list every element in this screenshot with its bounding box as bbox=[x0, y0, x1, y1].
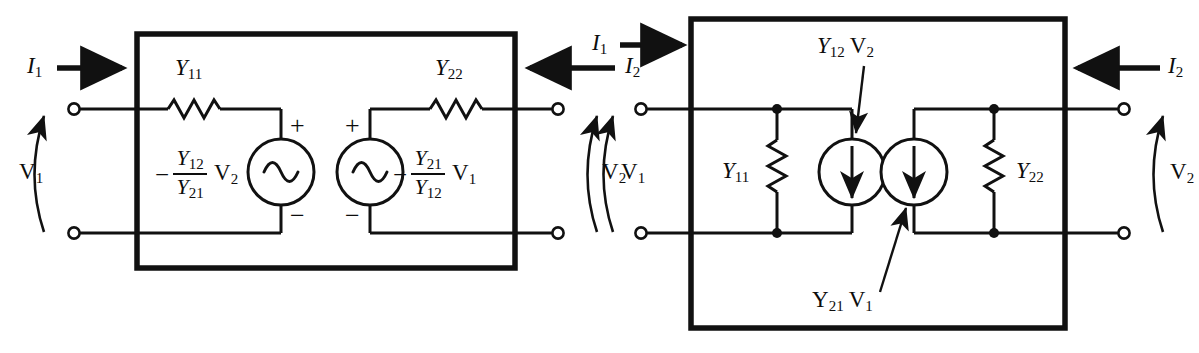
left-source1-factor: V2 bbox=[214, 161, 238, 187]
left-i2-label: I2 bbox=[625, 54, 640, 80]
left-source1-fraction: Y12 Y21 bbox=[173, 147, 207, 201]
right-port1-bottom-terminal bbox=[635, 227, 646, 238]
left-y11-label: Y11 bbox=[175, 56, 202, 82]
circuit-diagram-figure: I1 I2 V1 V2 Y11 Y22 − Y12 Y21 V2 + − − Y… bbox=[0, 0, 1199, 353]
right-i2-label: I2 bbox=[1168, 54, 1183, 80]
right-v2-polarity-arc bbox=[1154, 116, 1164, 232]
right-y22-bottom-junction-dot bbox=[989, 228, 999, 238]
right-y11-bottom-junction-dot bbox=[772, 228, 782, 238]
left-i1-label: I1 bbox=[27, 54, 42, 80]
left-source1-numerator: Y12 bbox=[174, 147, 205, 173]
left-y22-label: Y22 bbox=[435, 56, 463, 82]
left-port1-top-terminal bbox=[68, 103, 79, 114]
right-y11-top-junction-dot bbox=[772, 104, 782, 114]
left-source1-expression: − Y12 Y21 V2 bbox=[155, 147, 238, 201]
left-source2-denominator: Y12 bbox=[412, 175, 443, 201]
left-source2-fraction: Y21 Y12 bbox=[411, 147, 445, 201]
right-source1-label: Y12V2 bbox=[817, 34, 874, 60]
left-source1-plus-terminal: + bbox=[290, 113, 305, 139]
left-source2-expression: − Y21 Y12 V1 bbox=[393, 147, 476, 201]
left-port2-top-terminal bbox=[552, 103, 563, 114]
left-port1-bottom-terminal bbox=[68, 227, 79, 238]
right-port1-top-terminal bbox=[635, 103, 646, 114]
left-port2-bottom-terminal bbox=[552, 227, 563, 238]
left-source1-minus-sign: − bbox=[155, 162, 169, 187]
right-source1-leader-line bbox=[856, 66, 864, 133]
right-port2-top-terminal bbox=[1118, 103, 1129, 114]
left-source2-minus-sign: − bbox=[393, 162, 407, 187]
right-v1-label: V1 bbox=[621, 160, 645, 186]
right-v2-label: V2 bbox=[1170, 160, 1194, 186]
right-circuit-group bbox=[604, 19, 1164, 328]
left-source2-minus-terminal: − bbox=[345, 203, 360, 229]
right-resistor-y22 bbox=[985, 140, 1003, 192]
right-resistor-y11 bbox=[768, 140, 786, 192]
right-source2-leader-line bbox=[880, 208, 906, 292]
left-source2-factor: V1 bbox=[452, 161, 476, 187]
right-i1-label: I1 bbox=[592, 31, 607, 57]
left-source1-denominator: Y21 bbox=[174, 175, 205, 201]
left-source1-minus-terminal: − bbox=[290, 203, 305, 229]
right-port2-bottom-terminal bbox=[1118, 227, 1129, 238]
left-resistor-y11 bbox=[168, 100, 220, 118]
left-resistor-y22 bbox=[430, 100, 482, 118]
left-circuit-group bbox=[35, 34, 616, 268]
left-v1-label: V1 bbox=[19, 160, 43, 186]
right-y22-top-junction-dot bbox=[989, 104, 999, 114]
right-y22-label: Y22 bbox=[1016, 159, 1044, 185]
right-source2-label: Y21V1 bbox=[812, 288, 873, 314]
left-source2-plus-terminal: + bbox=[345, 113, 360, 139]
right-y11-label: Y11 bbox=[722, 159, 749, 185]
left-source2-numerator: Y21 bbox=[412, 147, 443, 173]
left-v2-polarity-arc bbox=[588, 116, 598, 232]
